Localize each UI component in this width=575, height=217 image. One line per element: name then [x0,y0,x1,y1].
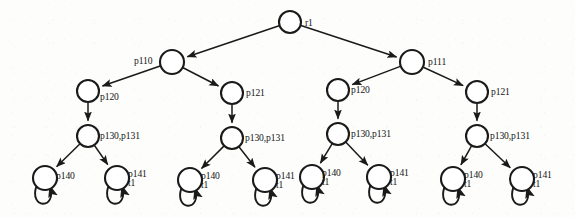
tree-node-leaf-6[interactable] [367,165,391,189]
node-label-n-p120-b: p120 [351,84,370,95]
tree-node-n-p130-a[interactable] [77,125,99,147]
tree-edge [423,67,463,85]
node-label-n-p120-a: p120 [100,91,119,102]
tree-edge [301,26,397,57]
node-label-n-p130-d: p130,p131 [490,130,530,141]
node-label-n-p111: p111 [428,56,446,67]
tree-node-leaf-4[interactable] [253,168,277,192]
node-sublabel-leaf-2: t1 [128,177,136,188]
tree-node-n-p110[interactable] [160,50,184,74]
tree-edge [57,144,80,167]
tree-edge [485,144,510,168]
node-sublabel-leaf-4: t1 [276,179,284,190]
tree-node-leaf-8[interactable] [510,167,534,191]
node-label-root: r1 [305,17,313,28]
tree-node-n-p121-a[interactable] [221,82,243,104]
tree-node-leaf-5[interactable] [300,165,324,189]
tree-edge [95,145,108,164]
node-sublabel-leaf-3: t1 [201,179,209,190]
tree-diagram-svg: r1p110p111p120p121p120p121p130,p131p130,… [0,0,575,217]
tree-diagram-canvas: r1p110p111p120p121p120p121p130,p131p130,… [0,0,575,217]
tree-edge [352,66,400,84]
node-label-leaf-1: p140 [56,170,75,181]
tree-node-n-p130-b[interactable] [221,127,243,149]
tree-node-leaf-3[interactable] [178,168,202,192]
node-label-n-p130-c: p130,p131 [351,128,391,139]
node-sublabel-leaf-7: t1 [464,178,472,189]
tree-edge [183,68,218,86]
tree-node-n-p130-c[interactable] [327,123,349,145]
node-label-n-p121-b: p121 [491,86,510,97]
tree-edge [201,146,223,168]
node-label-n-p121-a: p121 [246,87,265,98]
tree-node-n-p111[interactable] [400,50,424,74]
tree-edge [461,146,472,165]
tree-node-n-p121-b[interactable] [466,81,488,103]
tree-node-n-p130-d[interactable] [466,125,488,147]
node-label-n-p130-b: p130,p131 [245,132,285,143]
tree-edge [346,142,368,165]
tree-node-leaf-2[interactable] [105,166,129,190]
node-sublabel-leaf-5: t1 [322,176,330,187]
edges-layer [57,26,511,169]
tree-node-n-p120-b[interactable] [327,79,349,101]
tree-edge [102,66,160,86]
tree-edge [187,26,279,57]
node-label-n-p110: p110 [134,55,153,66]
tree-edge [320,144,332,163]
tree-edge [239,147,255,167]
tree-node-root[interactable] [279,11,301,33]
tree-node-leaf-1[interactable] [33,166,57,190]
node-sublabel-leaf-6: t1 [390,176,398,187]
tree-node-n-p120-a[interactable] [77,80,99,102]
node-label-n-p130-a: p130,p131 [100,130,140,141]
tree-node-leaf-7[interactable] [441,167,465,191]
node-sublabel-leaf-8: t1 [533,178,541,189]
